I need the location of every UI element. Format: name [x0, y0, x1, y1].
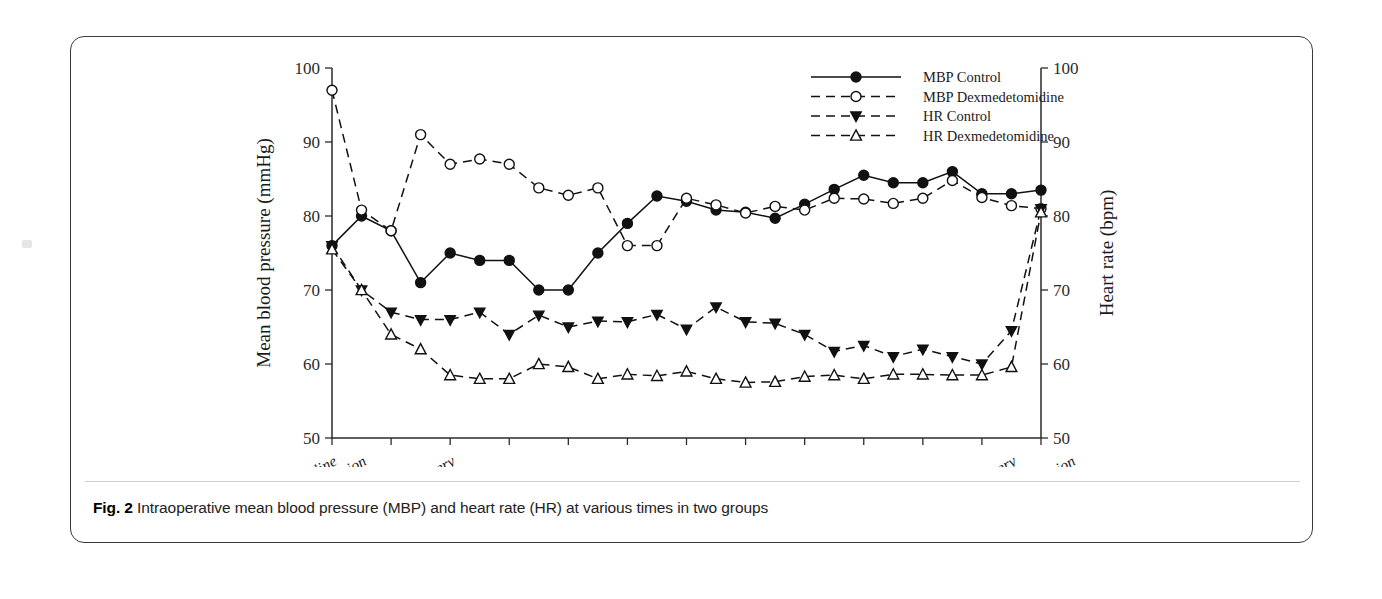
data-point-marker — [800, 205, 810, 215]
page-artifact-smudge — [22, 240, 32, 248]
data-point-marker — [1036, 185, 1046, 195]
x-tick-label: End of surgery — [930, 452, 1019, 467]
data-point-marker — [504, 330, 514, 340]
figure-caption-text: Intraoperative mean blood pressure (MBP)… — [133, 499, 768, 516]
y2-tick-label: 100 — [1053, 59, 1079, 78]
y2-tick-label: 70 — [1053, 281, 1070, 300]
y2-tick-label: 60 — [1053, 355, 1070, 374]
data-point-marker — [652, 191, 662, 201]
data-point-marker — [415, 344, 426, 354]
data-point-marker — [445, 316, 455, 326]
data-point-marker — [681, 366, 692, 376]
data-point-marker — [534, 285, 544, 295]
x-tick-label: Baseline — [285, 452, 340, 467]
data-point-marker — [533, 358, 544, 368]
legend-entry: MBP Control — [811, 69, 1001, 85]
series-mbp-control — [327, 167, 1046, 295]
data-point-marker — [859, 170, 869, 180]
data-point-marker — [918, 178, 928, 188]
legend-label: HR Control — [923, 108, 991, 124]
series-hr-control — [327, 205, 1046, 370]
y2-tick-label: 50 — [1053, 429, 1070, 448]
data-point-marker — [475, 154, 485, 164]
y-tick-label: 50 — [303, 429, 320, 448]
data-point-marker — [829, 193, 839, 203]
y-tick-label: 80 — [303, 207, 320, 226]
data-point-marker — [504, 159, 514, 169]
x-tick-label: Start of surgery — [365, 452, 457, 467]
data-point-marker — [947, 353, 957, 363]
y-tick-label: 90 — [303, 133, 320, 152]
data-point-marker — [829, 347, 839, 357]
y-tick-label: 60 — [303, 355, 320, 374]
data-point-marker — [534, 183, 544, 193]
data-point-marker — [593, 248, 603, 258]
data-point-marker — [741, 208, 751, 218]
figure-caption: Fig. 2 Intraoperative mean blood pressur… — [93, 499, 1293, 517]
data-point-marker — [851, 72, 861, 82]
y2-axis-title: Heart rate (bpm) — [1096, 190, 1118, 317]
data-point-marker — [1006, 189, 1016, 199]
data-point-marker — [563, 361, 574, 371]
data-point-marker — [888, 178, 898, 188]
data-point-marker — [682, 193, 692, 203]
legend-label: HR Dexmedetomidine — [923, 128, 1054, 144]
chart-svg: 50607080901005060708090100Mean blood pre… — [71, 37, 1314, 467]
data-point-marker — [415, 316, 425, 326]
data-point-marker — [851, 92, 861, 102]
figure-caption-label: Fig. 2 — [93, 499, 133, 516]
data-point-marker — [652, 241, 662, 251]
data-point-marker — [475, 308, 485, 318]
data-point-marker — [652, 310, 662, 320]
data-point-marker — [475, 255, 485, 265]
data-point-marker — [563, 323, 573, 333]
data-point-marker — [357, 205, 367, 215]
series-hr-dexmedetomidine — [327, 207, 1047, 387]
data-point-marker — [622, 318, 632, 328]
legend-entry: HR Control — [811, 108, 991, 124]
data-point-marker — [851, 112, 861, 122]
y-tick-label: 70 — [303, 281, 320, 300]
chart-legend: MBP ControlMBP DexmedetomidineHR Control… — [811, 69, 1064, 144]
data-point-marker — [593, 183, 603, 193]
data-point-marker — [711, 303, 721, 313]
y2-tick-label: 90 — [1053, 133, 1070, 152]
data-point-marker — [504, 255, 514, 265]
data-point-marker — [799, 330, 809, 340]
chart-xtick-labels: BaselineAfter intubationStart of surgery… — [274, 452, 1078, 467]
data-point-marker — [711, 200, 721, 210]
data-point-marker — [681, 325, 691, 335]
legend-entry: HR Dexmedetomidine — [811, 128, 1054, 144]
data-point-marker — [327, 85, 337, 95]
data-point-marker — [888, 353, 898, 363]
data-point-marker — [622, 218, 632, 228]
y2-tick-label: 80 — [1053, 207, 1070, 226]
data-point-marker — [770, 201, 780, 211]
data-point-marker — [563, 285, 573, 295]
data-point-marker — [977, 193, 987, 203]
caption-divider — [85, 481, 1300, 482]
data-point-marker — [416, 278, 426, 288]
data-point-marker — [563, 190, 573, 200]
y-tick-label: 100 — [295, 59, 321, 78]
data-point-marker — [947, 175, 957, 185]
data-point-marker — [711, 373, 722, 383]
y-axis-title: Mean blood pressure (mmHg) — [253, 138, 275, 368]
figure-card: 50607080901005060708090100Mean blood pre… — [70, 36, 1313, 543]
data-point-marker — [918, 193, 928, 203]
data-point-marker — [888, 198, 898, 208]
data-point-marker — [859, 194, 869, 204]
data-point-marker — [1006, 361, 1017, 371]
data-point-marker — [445, 159, 455, 169]
legend-label: MBP Dexmedetomidine — [923, 89, 1064, 105]
data-point-marker — [386, 329, 397, 339]
legend-label: MBP Control — [923, 69, 1001, 85]
data-point-marker — [416, 130, 426, 140]
data-point-marker — [829, 370, 840, 380]
data-point-marker — [770, 213, 780, 223]
data-point-marker — [386, 226, 396, 236]
chart-plot-area: 50607080901005060708090100Mean blood pre… — [71, 37, 1314, 467]
data-point-marker — [622, 241, 632, 251]
legend-entry: MBP Dexmedetomidine — [811, 89, 1064, 105]
data-point-marker — [1006, 201, 1016, 211]
